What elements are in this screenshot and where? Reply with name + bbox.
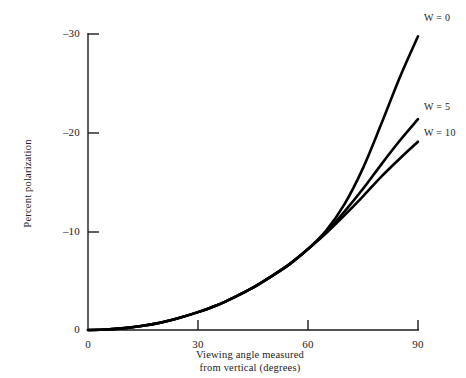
y-axis-title: Percent polarization: [22, 114, 33, 254]
x-axis-title-line-1: Viewing angle measured: [150, 349, 350, 362]
y-tick-label--20: –20: [38, 126, 80, 138]
x-axis-ticks: [198, 320, 418, 330]
curve-w-5: [88, 119, 418, 330]
curve-w-10: [88, 142, 418, 330]
y-tick-label--30: –30: [38, 27, 80, 39]
plot-canvas: [0, 0, 466, 378]
x-tick-label-0: 0: [74, 338, 102, 350]
x-axis-title-line-2: from vertical (degrees): [150, 362, 350, 375]
y-tick-label-0: 0: [38, 323, 80, 335]
chart-figure: –30 –20 –10 0 0 30 60 90 Percent polariz…: [0, 0, 466, 378]
x-tick-label-90: 90: [404, 338, 432, 350]
x-axis-title: Viewing angle measured from vertical (de…: [150, 349, 350, 375]
y-tick-label--10: –10: [38, 225, 80, 237]
y-axis-ticks: [88, 34, 99, 232]
curve-annotation-w-10: W = 10: [424, 127, 456, 138]
curve-annotation-w-5: W = 5: [424, 101, 450, 112]
curve-group: [88, 36, 418, 330]
curve-annotation-w-0: W = 0: [424, 12, 450, 23]
